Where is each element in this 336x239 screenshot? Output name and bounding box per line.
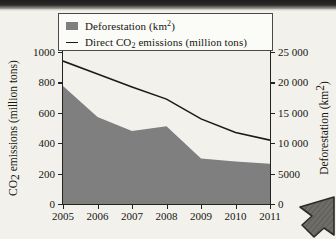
legend-label-emissions: Direct CO2 emissions (million tons) xyxy=(85,36,247,50)
chart-figure: Deforestation (km2) Direct CO2 emissions… xyxy=(0,9,336,239)
plot-frame xyxy=(63,52,270,204)
y-tick-right xyxy=(271,52,275,53)
x-tick xyxy=(63,205,64,209)
x-tick-label: 2008 xyxy=(156,210,178,222)
y-tick-left xyxy=(58,113,62,114)
y-tick-right xyxy=(271,113,275,114)
y-axis-left-spine xyxy=(62,51,63,205)
x-tick xyxy=(167,205,168,209)
y-tick-left xyxy=(58,52,62,53)
y-tick-label-right: 15 000 xyxy=(278,107,308,119)
y-tick-label-left: 0 xyxy=(50,198,56,210)
x-tick xyxy=(236,205,237,209)
x-tick xyxy=(201,205,202,209)
y-axis-right-title: Deforestation (km2) xyxy=(314,52,330,204)
y-tick-label-left: 400 xyxy=(39,137,56,149)
x-tick-label: 2005 xyxy=(52,210,74,222)
y-axis-left-title: CO2 emissions (million tons) xyxy=(6,52,22,204)
x-tick-label: 2010 xyxy=(225,210,247,222)
plot-area: 02004006008001000 0500010 00015 00020 00… xyxy=(63,52,270,204)
y-tick-left xyxy=(58,174,62,175)
legend-swatch-icon xyxy=(66,22,78,30)
y-tick-left xyxy=(58,143,62,144)
legend-item-deforestation: Deforestation (km2) xyxy=(66,17,266,34)
y-tick-label-left: 600 xyxy=(39,107,56,119)
y-tick-label-right: 20 000 xyxy=(278,76,308,88)
y-axis-right-spine xyxy=(270,51,271,205)
y-tick-left xyxy=(58,204,62,205)
legend-item-emissions: Direct CO2 emissions (million tons) xyxy=(66,34,266,51)
y-tick-label-right: 25 000 xyxy=(278,46,308,58)
x-tick-label: 2009 xyxy=(190,210,212,222)
y-tick-right xyxy=(271,174,275,175)
y-tick-right xyxy=(271,82,275,83)
chart-legend: Deforestation (km2) Direct CO2 emissions… xyxy=(58,13,273,51)
scan-edge-artifact xyxy=(0,0,336,9)
y-tick-left xyxy=(58,82,62,83)
y-tick-label-right: 5000 xyxy=(278,168,300,180)
y-tick-right xyxy=(271,143,275,144)
x-tick-label: 2006 xyxy=(87,210,109,222)
legend-label-deforestation: Deforestation (km2) xyxy=(85,19,175,32)
x-tick-label: 2007 xyxy=(121,210,143,222)
corner-arrow-artifact xyxy=(290,195,336,239)
legend-line-icon xyxy=(66,42,78,43)
y-tick-label-right: 0 xyxy=(278,198,284,210)
x-tick xyxy=(270,205,271,209)
y-tick-label-left: 200 xyxy=(39,168,56,180)
y-tick-right xyxy=(271,204,275,205)
x-tick-label: 2011 xyxy=(259,210,281,222)
y-tick-label-right: 10 000 xyxy=(278,137,308,149)
y-tick-label-left: 1000 xyxy=(33,46,55,58)
x-tick xyxy=(132,205,133,209)
x-tick xyxy=(98,205,99,209)
y-tick-label-left: 800 xyxy=(39,76,56,88)
